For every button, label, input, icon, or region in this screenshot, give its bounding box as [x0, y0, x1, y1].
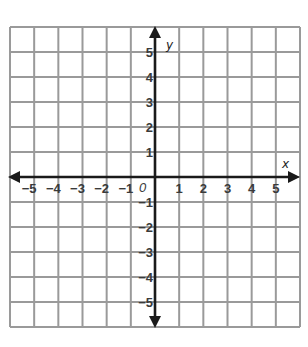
- x-tick-label: −1: [118, 181, 133, 196]
- y-tick-label: 3: [146, 95, 153, 110]
- y-tick-label: 2: [146, 120, 153, 135]
- y-tick-label: −1: [138, 195, 153, 210]
- y-tick-label: −4: [138, 270, 154, 285]
- y-tick-label: 5: [146, 45, 153, 60]
- coordinate-plane: −5−4−3−2−11234554321−1−2−3−4−5 x y 0: [0, 0, 308, 347]
- x-tick-label: −3: [70, 181, 85, 196]
- x-axis-label: x: [281, 157, 290, 171]
- x-tick-label: −5: [22, 181, 37, 196]
- y-tick-label: −3: [138, 245, 153, 260]
- y-tick-label: −2: [138, 220, 153, 235]
- x-tick-label: 4: [248, 181, 256, 196]
- y-tick-label: 4: [146, 70, 154, 85]
- x-tick-label: 2: [200, 181, 207, 196]
- y-tick-label: −5: [138, 295, 153, 310]
- x-tick-label: 1: [176, 181, 183, 196]
- x-tick-label: 5: [272, 181, 279, 196]
- origin-label: 0: [139, 180, 147, 195]
- x-tick-label: −4: [46, 181, 62, 196]
- x-tick-label: −2: [94, 181, 109, 196]
- axes: [8, 26, 300, 328]
- y-axis-label: y: [165, 38, 174, 52]
- x-tick-label: 3: [224, 181, 231, 196]
- y-tick-label: 1: [146, 145, 153, 160]
- x-axis-right-arrow-icon: [288, 171, 300, 183]
